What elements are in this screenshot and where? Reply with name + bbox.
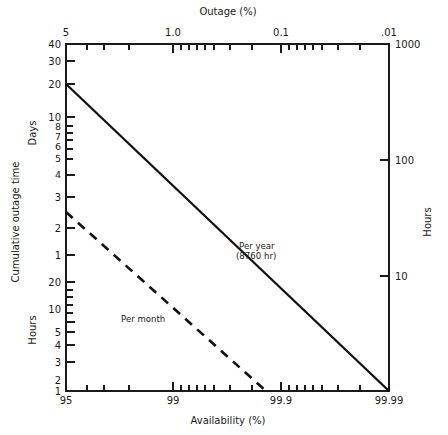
left-unit-hours: Hours xyxy=(27,315,38,344)
left-tick-label-h5: 5 xyxy=(55,327,61,338)
right-tick-label-100: 100 xyxy=(395,155,414,166)
left-axis-title: Cumulative outage time xyxy=(10,161,21,282)
right-tick-label-10: 10 xyxy=(395,271,408,282)
annotation-per-year-line2: (8760 hr) xyxy=(236,251,276,261)
left-tick-label-d3: 3 xyxy=(55,192,61,203)
top-tick-label-001: .01 xyxy=(381,27,397,38)
left-tick-label-h4: 4 xyxy=(55,340,61,351)
right-tick-label-1000: 1000 xyxy=(395,39,420,50)
series-per-month xyxy=(66,212,266,391)
left-tick-label-d4: 4 xyxy=(55,169,61,180)
per-month-line xyxy=(66,212,266,391)
bottom-axis-title: Availability (%) xyxy=(191,415,266,426)
right-axis-title: Hours xyxy=(422,207,433,236)
availability-outage-chart: 5 1.0 0.1 .01 Outage (%) 95 99 99.9 99.9… xyxy=(0,0,448,435)
annotation-per-month: Per month xyxy=(121,314,165,324)
annotation-per-year-line1: Per year xyxy=(239,241,275,251)
left-tick-label-d20: 20 xyxy=(48,79,61,90)
bottom-tick-label-99: 99 xyxy=(167,395,180,406)
top-axis-title: Outage (%) xyxy=(199,6,256,17)
left-tick-label-d6: 6 xyxy=(55,141,61,152)
top-tick-label-1: 1.0 xyxy=(165,27,181,38)
left-tick-label-d40: 40 xyxy=(48,39,61,50)
left-tick-label-d30: 30 xyxy=(48,56,61,67)
left-tick-label-h20: 20 xyxy=(48,277,61,288)
left-unit-days: Days xyxy=(27,121,38,146)
right-axis-ticks xyxy=(380,44,389,276)
series-per-year xyxy=(66,84,389,391)
top-tick-label-01: 0.1 xyxy=(273,27,289,38)
top-tick-label-5: 5 xyxy=(63,27,69,38)
left-tick-label-d2: 2 xyxy=(55,223,61,234)
left-tick-label-h2: 2 xyxy=(55,375,61,386)
bottom-tick-label-999: 99.9 xyxy=(270,395,292,406)
bottom-axis-ticks xyxy=(66,382,389,391)
plot-frame xyxy=(66,44,389,391)
chart-canvas: 5 1.0 0.1 .01 Outage (%) 95 99 99.9 99.9… xyxy=(0,0,448,435)
left-tick-label-d5: 5 xyxy=(55,153,61,164)
per-year-line xyxy=(66,84,389,391)
left-tick-label-h1: 1 xyxy=(55,386,61,397)
axes-rectangle xyxy=(66,44,389,391)
bottom-tick-label-95: 95 xyxy=(60,395,73,406)
left-tick-label-d1: 1 xyxy=(55,250,61,261)
left-tick-label-h10: 10 xyxy=(48,304,61,315)
bottom-tick-label-9999: 99.99 xyxy=(375,395,404,406)
left-tick-label-h3: 3 xyxy=(55,357,61,368)
top-axis-ticks xyxy=(66,44,389,53)
